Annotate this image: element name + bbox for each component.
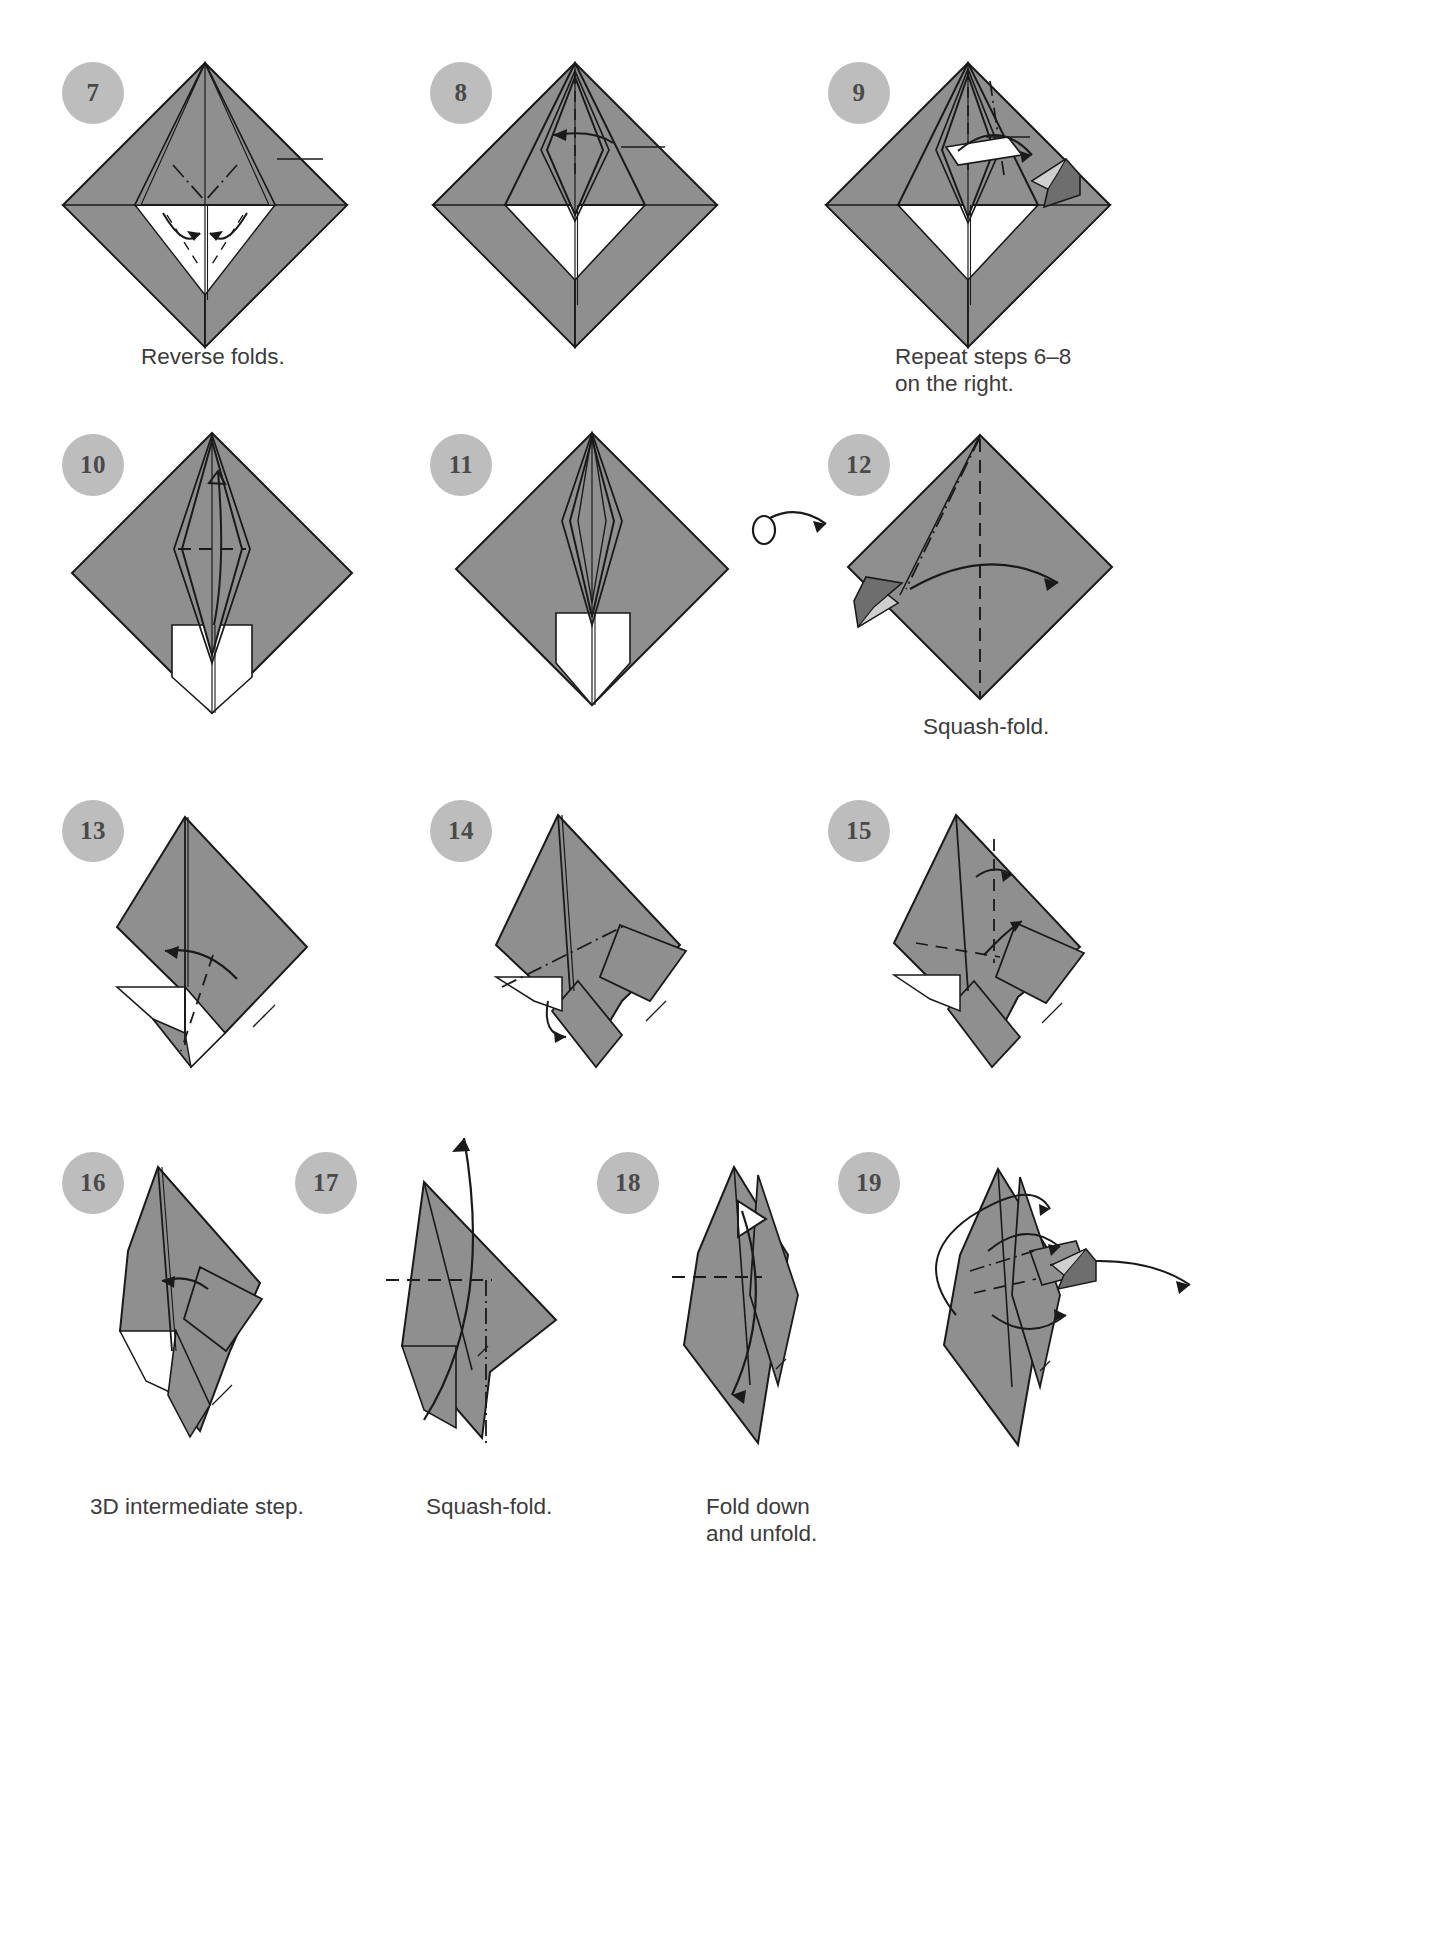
step-badge-14: 14 (430, 800, 492, 862)
step-17-caption: Squash-fold. (426, 1493, 552, 1520)
push-arrow-icon (854, 577, 902, 627)
step-number: 8 (455, 79, 468, 107)
step-number: 19 (856, 1169, 882, 1197)
step-number: 11 (449, 451, 474, 479)
step-badge-11: 11 (430, 434, 492, 496)
step-15-figure (870, 805, 1160, 1085)
step-12-caption: Squash-fold. (923, 713, 1049, 740)
step-badge-19: 19 (838, 1152, 900, 1214)
step-9-caption: Repeat steps 6–8 on the right. (895, 343, 1071, 397)
step-badge-8: 8 (430, 62, 492, 124)
step-badge-12: 12 (828, 434, 890, 496)
step-16-caption: 3D intermediate step. (90, 1493, 304, 1520)
step-number: 17 (313, 1169, 339, 1197)
step-badge-10: 10 (62, 434, 124, 496)
turn-over-symbol: turn over (742, 500, 842, 560)
step-badge-9: 9 (828, 62, 890, 124)
step-number: 16 (80, 1169, 106, 1197)
step-19-figure (900, 1155, 1230, 1465)
step-number: 18 (615, 1169, 641, 1197)
step-number: 12 (846, 451, 872, 479)
step-badge-16: 16 (62, 1152, 124, 1214)
step-number: 7 (87, 79, 100, 107)
step-badge-7: 7 (62, 62, 124, 124)
step-7-caption: Reverse folds. (141, 343, 285, 370)
step-17-figure (360, 1120, 610, 1460)
step-badge-15: 15 (828, 800, 890, 862)
step-badge-18: 18 (597, 1152, 659, 1214)
step-14-figure (470, 805, 760, 1085)
diagram-page: step 7 diagram (0, 0, 1442, 1954)
step-number: 13 (80, 817, 106, 845)
step-number: 14 (448, 817, 474, 845)
step-badge-13: 13 (62, 800, 124, 862)
step-number: 10 (80, 451, 106, 479)
step-number: 15 (846, 817, 872, 845)
step-number: 9 (853, 79, 866, 107)
step-badge-17: 17 (295, 1152, 357, 1214)
step-13-figure (95, 805, 385, 1085)
step-18-caption: Fold down and unfold. (706, 1493, 817, 1547)
